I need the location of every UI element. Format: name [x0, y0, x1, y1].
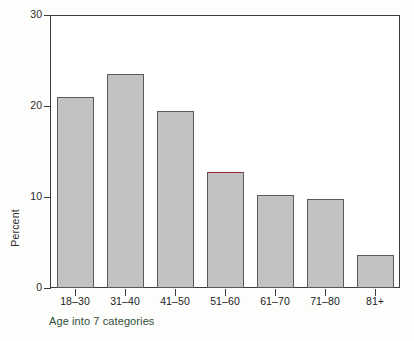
bar-chart: Percent 0102030 18–3031–4041–5051–6061–7… — [0, 0, 414, 341]
x-axis-tick-label: 18–30 — [50, 295, 100, 307]
x-axis-title: Age into 7 categories — [49, 315, 154, 327]
x-axis-tick-label: 31–40 — [100, 295, 150, 307]
x-axis-ticks — [0, 0, 414, 341]
x-axis-tick-label: 41–50 — [150, 295, 200, 307]
x-axis-tick-labels: 18–3031–4041–5051–6061–7071–8081+ — [0, 295, 414, 311]
x-axis-tick-label: 71–80 — [300, 295, 350, 307]
x-axis-tick-label: 81+ — [350, 295, 400, 307]
x-axis-tick-label: 51–60 — [200, 295, 250, 307]
x-axis-tick-label: 61–70 — [250, 295, 300, 307]
